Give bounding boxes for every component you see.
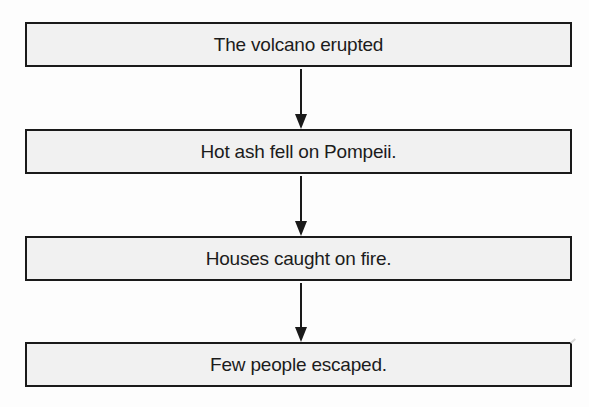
step-label: Few people escaped.	[210, 354, 387, 376]
step-box-few-escaped: Few people escaped.	[25, 342, 572, 387]
step-box-hot-ash: Hot ash fell on Pompeii.	[25, 129, 572, 174]
arrow-head	[295, 114, 307, 129]
step-label: The volcano erupted	[214, 34, 383, 56]
step-label: Houses caught on fire.	[206, 248, 392, 270]
arrow-head	[295, 221, 307, 236]
step-box-volcano-erupted: The volcano erupted	[25, 22, 572, 67]
arrow-head	[295, 327, 307, 342]
arrow-shaft	[300, 283, 302, 328]
step-box-houses-fire: Houses caught on fire.	[25, 236, 572, 281]
arrow-down-icon	[298, 69, 304, 129]
arrow-down-icon	[298, 283, 304, 342]
step-label: Hot ash fell on Pompeii.	[201, 141, 397, 163]
arrow-down-icon	[298, 176, 304, 236]
stray-mark	[570, 338, 576, 343]
flowchart: The volcano erupted Hot ash fell on Pomp…	[0, 0, 589, 407]
arrow-shaft	[300, 176, 302, 222]
arrow-shaft	[300, 69, 302, 115]
